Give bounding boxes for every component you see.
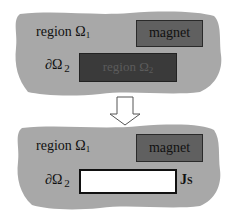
current-text: J [180,172,187,187]
region2-subscript: 2 [149,65,154,75]
top-boundary-label: ∂Ω2 [45,57,70,74]
boundary-subscript: 2 [64,62,70,74]
bottom-magnet-box: magnet [136,134,203,162]
region2-text: region Ω [103,59,149,74]
hollow-down-arrow-icon [110,97,140,125]
top-magnet-box: magnet [136,20,203,47]
boundary-subscript: 2 [64,177,70,189]
magnet-label: magnet [149,25,190,40]
magnet-label: magnet [149,140,190,155]
top-region2-box: region Ω2 [79,53,177,82]
region1-subscript: 1 [86,144,91,154]
region1-text: region Ω [36,138,86,153]
region1-subscript: 1 [86,30,91,40]
top-region1-label: region Ω1 [36,24,90,40]
bottom-region1-label: region Ω1 [36,138,90,154]
boundary-text: ∂Ω [45,172,62,187]
region1-text: region Ω [36,24,86,39]
bottom-region2-hole [79,169,177,194]
current-subscript: S [187,175,193,186]
boundary-text: ∂Ω [45,57,62,72]
bottom-boundary-label: ∂Ω2 [45,172,70,189]
surface-current-label: JS [180,172,193,188]
